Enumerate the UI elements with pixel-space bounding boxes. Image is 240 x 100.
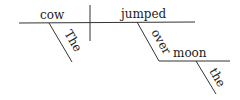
prep-object-word: moon [173,46,207,60]
sentence-diagram: cow jumped moon The over the [0,0,240,100]
prep-object-modifier-word: the [206,66,228,90]
verb-word: jumped [119,7,167,21]
main-baseline [19,22,195,23]
subject-word: cow [40,8,65,22]
preposition-word: over [148,27,174,57]
